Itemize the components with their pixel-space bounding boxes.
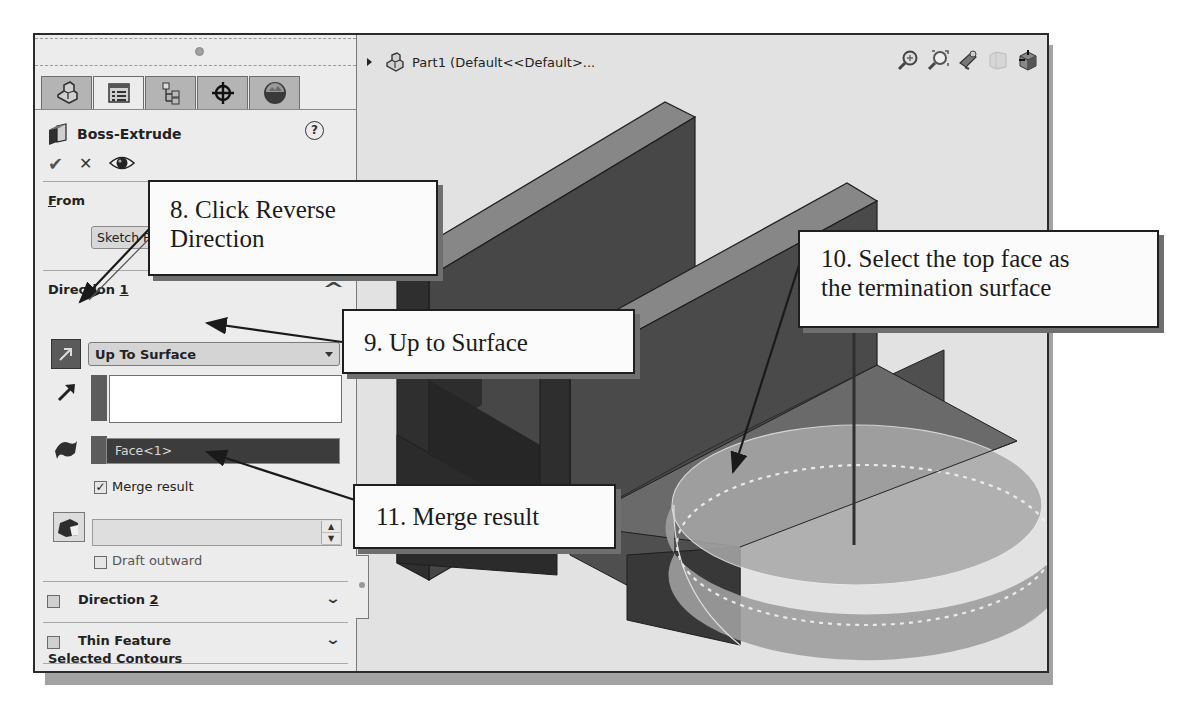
termination-surface-face xyxy=(672,425,1042,585)
property-list-icon xyxy=(107,82,131,104)
expand-chevron-icon[interactable]: ⌄ xyxy=(325,590,341,606)
draft-angle-spinbox[interactable]: ▲ ▼ xyxy=(92,519,342,546)
reverse-direction-button[interactable] xyxy=(51,339,81,369)
spin-up-icon[interactable]: ▲ xyxy=(322,521,340,533)
tab-featuremanager[interactable] xyxy=(41,76,92,110)
crosshair-target-icon xyxy=(211,81,235,105)
callout-step8: 8. Click Reverse Direction xyxy=(148,180,438,276)
splitter-dot-icon xyxy=(359,582,365,588)
action-buttons: ✔ ✕ xyxy=(48,152,356,174)
thin-feature-checkbox[interactable] xyxy=(47,636,60,649)
end-condition-select[interactable]: Up To Surface xyxy=(88,342,340,366)
spin-down-icon[interactable]: ▼ xyxy=(322,533,340,545)
part-tree-icon xyxy=(54,81,80,105)
selected-contours-group[interactable]: Selected Contours xyxy=(35,664,356,673)
tab-propertymanager[interactable] xyxy=(93,76,144,110)
tab-configurationmanager[interactable] xyxy=(145,76,196,110)
reverse-direction-arrow-icon xyxy=(52,340,80,368)
selection-color-indicator xyxy=(91,436,107,464)
preview-eye-icon[interactable] xyxy=(109,154,135,172)
appearance-sphere-icon xyxy=(262,80,288,106)
selected-contours-title: Selected Contours xyxy=(48,651,182,666)
grip-dot-icon xyxy=(195,47,204,56)
callout-step11-line1: 11. Merge result xyxy=(376,502,614,531)
thin-feature-title: Thin Feature xyxy=(78,633,171,648)
direction-of-extrusion-list[interactable] xyxy=(109,375,342,423)
callout-step11: 11. Merge result xyxy=(353,484,616,549)
collapse-chevron-icon[interactable]: ^ xyxy=(322,278,345,299)
spin-buttons[interactable]: ▲ ▼ xyxy=(321,521,340,544)
panel-grip[interactable] xyxy=(35,38,356,66)
dropdown-arrow-icon xyxy=(325,352,333,357)
direction2-checkbox[interactable] xyxy=(47,595,60,608)
direction1-section-title[interactable]: Direction 1 xyxy=(48,282,129,297)
tabs-divider xyxy=(35,109,356,110)
callout-step10-line2: the termination surface xyxy=(821,273,1157,302)
draft-on-off-button[interactable] xyxy=(53,512,85,542)
configuration-icon xyxy=(160,81,182,105)
draft-icon xyxy=(54,513,84,541)
callout-step10-line1: 10. Select the top face as xyxy=(821,244,1157,273)
callout-step9: 9. Up to Surface xyxy=(342,309,635,374)
feature-title: Boss-Extrude xyxy=(77,126,181,142)
direction2-group[interactable]: Direction 2 ⌄ xyxy=(35,582,356,622)
surface-face-icon xyxy=(53,437,79,463)
help-button[interactable]: ? xyxy=(305,121,324,140)
from-section-title[interactable]: From xyxy=(48,193,85,208)
callout-step9-line1: 9. Up to Surface xyxy=(364,328,633,357)
ok-button[interactable]: ✔ xyxy=(48,153,63,174)
merge-result-label: Merge result xyxy=(112,479,194,494)
boss-extrude-icon xyxy=(47,122,69,146)
cancel-button[interactable]: ✕ xyxy=(79,154,92,173)
tab-dimxpert[interactable] xyxy=(197,76,248,110)
panel-splitter-handle[interactable] xyxy=(356,555,369,619)
callout-step8-line1: 8. Click Reverse xyxy=(170,195,436,224)
direction-vector-icon xyxy=(55,380,79,404)
callout-step10: 10. Select the top face as the terminati… xyxy=(798,230,1159,328)
property-manager-panel: Boss-Extrude ? ✔ ✕ From Sketch Plane Dir… xyxy=(35,35,357,671)
direction2-title: Direction 2 xyxy=(78,592,159,607)
view-orientation-dropdown[interactable]: ▾ xyxy=(1047,54,1049,67)
tab-display-manager[interactable] xyxy=(249,76,300,110)
manager-tabs xyxy=(41,76,356,110)
expand-chevron-icon[interactable]: ⌄ xyxy=(325,631,341,647)
callout-step8-line2: Direction xyxy=(170,224,436,253)
face-vertex-selection-list[interactable]: Face<1> xyxy=(106,438,340,464)
draft-outward-label: Draft outward xyxy=(112,553,202,568)
merge-result-checkbox[interactable]: ✓ xyxy=(94,481,107,494)
selection-color-indicator xyxy=(91,375,107,421)
draft-outward-checkbox[interactable] xyxy=(94,556,107,569)
